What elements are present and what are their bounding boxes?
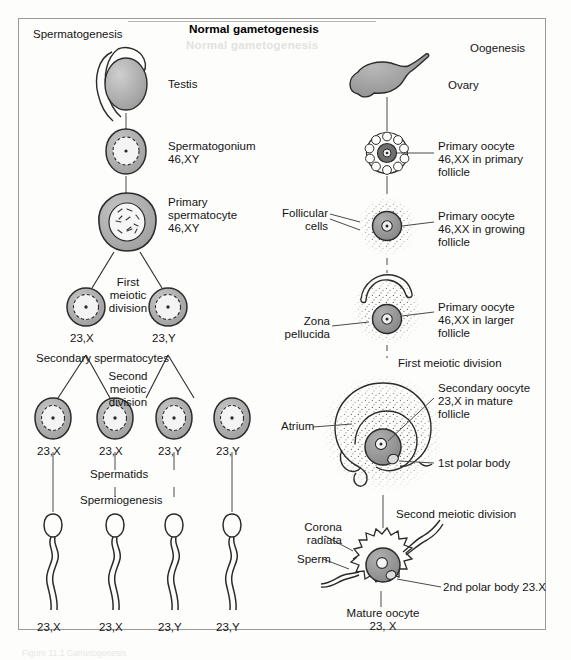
primary-oocyte-primary-follicle-label: Primary oocyte46,XX in primaryfollicle — [438, 140, 523, 180]
spermatogonium-karyotype: 46,XY — [168, 153, 199, 166]
spermatid-2-karyotype: 23,X — [99, 445, 123, 458]
second-meiotic-division-label: Second meiotic division — [396, 508, 516, 521]
atrium-label: Atrium — [281, 420, 314, 433]
spermiogenesis-label: Spermiogenesis — [80, 494, 162, 507]
ovary-label: Ovary — [448, 79, 479, 92]
primary-spermatocyte-karyotype: 46,XY — [168, 222, 199, 235]
spermatids-label: Spermatids — [90, 468, 148, 481]
corona-radiata-label: Coronaradiata — [286, 521, 342, 547]
first-meiotic-division-label: Firstmeioticdivision — [103, 276, 153, 316]
spermatogonium-label: Spermatogonium — [168, 140, 256, 153]
secondary-cell-left-karyotype: 23,X — [70, 332, 94, 345]
mature-oocyte-label: Mature oocyte23, X — [337, 607, 429, 633]
spermatid-4-karyotype: 23,Y — [216, 445, 240, 458]
zona-pellucida-label: Zonapellucida — [272, 315, 330, 341]
primary-oocyte-growing-follicle-label: Primary oocyte46,XX in growingfollicle — [438, 210, 525, 250]
spermatid-3-karyotype: 23,Y — [158, 445, 182, 458]
sperm-2-karyotype: 23,X — [99, 621, 123, 634]
secondary-spermatocytes-label: Secondary spermatocytes — [36, 352, 169, 365]
second-meiotic-division-label: Secondmeioticdivision — [103, 370, 153, 410]
primary-oocyte-larger-follicle-label: Primary oocyte46,XX in largerfollicle — [438, 301, 515, 341]
sperm-4-karyotype: 23,Y — [216, 621, 240, 634]
sperm-3-karyotype: 23,Y — [158, 621, 182, 634]
second-polar-body-label: 2nd polar body 23.X — [443, 581, 546, 594]
figure-caption: Figure 11.1 Gametogenesis — [22, 648, 126, 658]
sperm-1-karyotype: 23,X — [37, 621, 61, 634]
first-polar-body-label: 1st polar body — [438, 457, 510, 470]
sperm-callout-label: Sperm — [297, 553, 331, 566]
first-meiotic-division-oogenesis-label: First meiotic division — [398, 357, 502, 370]
secondary-oocyte-label: Secondary oocyte23,X in maturefollicle — [438, 382, 530, 422]
follicular-cells-label: Follicularcells — [272, 207, 328, 233]
primary-spermatocyte-label: Primary — [168, 196, 208, 209]
primary-spermatocyte-label2: spermatocyte — [168, 209, 237, 222]
testis-label: Testis — [168, 78, 197, 91]
figure-page: Normal gametogenesis Normal gametogenesi… — [0, 0, 571, 660]
secondary-cell-right-karyotype: 23,Y — [152, 332, 176, 345]
spermatid-1-karyotype: 23,X — [37, 445, 61, 458]
